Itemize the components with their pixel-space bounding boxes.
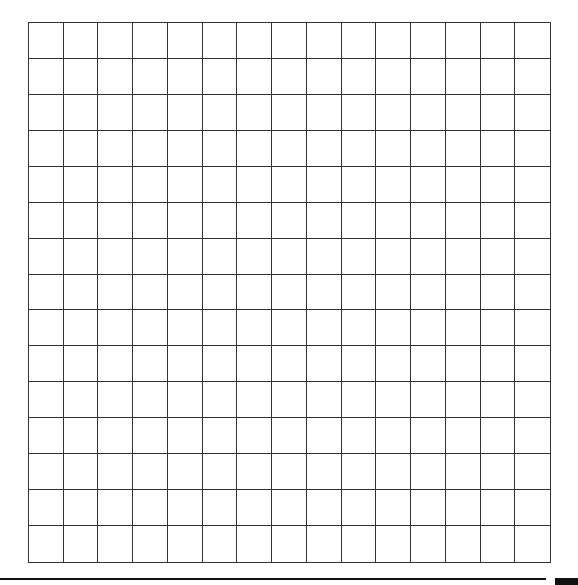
grid-cell (481, 167, 516, 203)
grid-cell (98, 382, 133, 418)
grid-cell (342, 382, 377, 418)
corner-block (555, 578, 578, 585)
grid-cell (272, 310, 307, 346)
grid-cell (446, 239, 481, 275)
grid-cell (411, 95, 446, 131)
grid-cell (29, 418, 64, 454)
grid-cell (376, 203, 411, 239)
grid-cell (237, 59, 272, 95)
grid-cell (237, 23, 272, 59)
grid-cell (133, 275, 168, 311)
grid-cell (64, 95, 99, 131)
grid-cell (237, 382, 272, 418)
grid-cell (515, 526, 550, 562)
grid-cell (133, 418, 168, 454)
grid-cell (307, 490, 342, 526)
bottom-rule (0, 578, 546, 580)
grid-cell (133, 382, 168, 418)
grid-cell (515, 167, 550, 203)
grid-cell (29, 454, 64, 490)
grid-cell (272, 131, 307, 167)
grid-cell (411, 275, 446, 311)
grid-cell (307, 346, 342, 382)
grid-cell (168, 490, 203, 526)
grid-cell (411, 490, 446, 526)
grid-cell (203, 454, 238, 490)
grid-cell (342, 167, 377, 203)
grid-cell (515, 418, 550, 454)
grid-cell (376, 95, 411, 131)
grid-cell (237, 454, 272, 490)
grid-cell (133, 346, 168, 382)
grid-cell (237, 346, 272, 382)
grid-cell (168, 346, 203, 382)
grid-cell (446, 490, 481, 526)
grid-cell (446, 418, 481, 454)
grid-cell (446, 310, 481, 346)
grid-cell (481, 239, 516, 275)
grid-cell (446, 131, 481, 167)
grid-cell (64, 526, 99, 562)
grid-cell (64, 454, 99, 490)
grid-cell (272, 275, 307, 311)
grid-cell (64, 131, 99, 167)
grid-cell (272, 454, 307, 490)
grid-cell (98, 203, 133, 239)
grid-cell (64, 418, 99, 454)
grid-cell (98, 239, 133, 275)
grid-cell (203, 167, 238, 203)
grid-cell (64, 59, 99, 95)
grid-cell (411, 418, 446, 454)
grid-cell (481, 23, 516, 59)
grid-cell (98, 346, 133, 382)
grid-cell (342, 275, 377, 311)
grid-cell (411, 382, 446, 418)
grid-cell (237, 490, 272, 526)
grid-cell (64, 310, 99, 346)
grid-cell (307, 310, 342, 346)
grid-cell (515, 490, 550, 526)
grid-cell (203, 310, 238, 346)
grid-cell (237, 239, 272, 275)
grid-cell (64, 490, 99, 526)
grid-cell (272, 382, 307, 418)
grid-cell (133, 167, 168, 203)
grid-cell (342, 23, 377, 59)
grid-cell (237, 167, 272, 203)
grid-cell (64, 23, 99, 59)
grid-cell (29, 490, 64, 526)
grid-cell (307, 59, 342, 95)
grid-cell (446, 346, 481, 382)
grid-cell (411, 346, 446, 382)
grid-cell (307, 203, 342, 239)
grid-cell (411, 131, 446, 167)
grid-cell (376, 382, 411, 418)
grid-cell (272, 418, 307, 454)
grid-cell (376, 275, 411, 311)
grid-cell (168, 526, 203, 562)
grid-cell (515, 310, 550, 346)
grid-cell (168, 275, 203, 311)
grid-cell (133, 203, 168, 239)
grid-cell (481, 418, 516, 454)
grid-cell (133, 310, 168, 346)
grid-cell (411, 454, 446, 490)
grid-cell (133, 59, 168, 95)
grid-cell (342, 95, 377, 131)
grid-cell (203, 275, 238, 311)
grid-cell (307, 131, 342, 167)
grid-cell (515, 131, 550, 167)
grid-cell (29, 382, 64, 418)
grid-cell (515, 239, 550, 275)
grid-cell (98, 59, 133, 95)
grid-cell (133, 23, 168, 59)
grid-cell (515, 454, 550, 490)
grid-cell (481, 203, 516, 239)
grid-cell (64, 346, 99, 382)
grid-cell (481, 382, 516, 418)
grid-cell (29, 131, 64, 167)
grid-cell (515, 203, 550, 239)
grid-cell (98, 418, 133, 454)
grid-cell (237, 203, 272, 239)
grid-cell (272, 239, 307, 275)
